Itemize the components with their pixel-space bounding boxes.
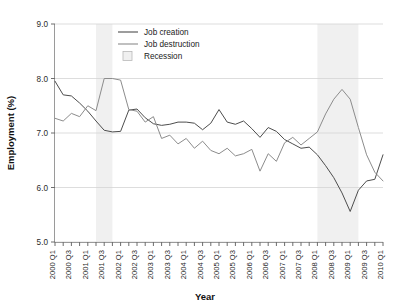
y-tick-label: 7.0 <box>37 129 49 138</box>
x-tick-label: 2009 Q1 <box>343 250 352 279</box>
x-tick-label: 2008 Q3 <box>327 250 336 279</box>
y-tick-label: 9.0 <box>37 20 49 29</box>
x-tick-label: 2002 Q3 <box>130 250 139 279</box>
x-tick-label: 2003 Q3 <box>163 250 172 279</box>
x-tick-label: 2005 Q3 <box>228 250 237 279</box>
x-tick-label: 2001 Q3 <box>97 250 106 279</box>
x-tick-label: 2006 Q3 <box>261 250 270 279</box>
x-tick-label: 2009 Q3 <box>360 250 369 279</box>
x-tick-label: 2005 Q1 <box>212 250 221 279</box>
x-tick-label: 2006 Q1 <box>245 250 254 279</box>
x-tick-label: 2000 Q3 <box>64 250 73 279</box>
legend-label: Job creation <box>144 28 189 37</box>
x-tick-label: 2007 Q1 <box>278 250 287 279</box>
x-tick-label: 2001 Q1 <box>81 250 90 279</box>
x-tick-label: 2004 Q1 <box>179 250 188 279</box>
y-axis-title: Employment (%) <box>5 96 16 170</box>
legend-color-swatch <box>123 52 132 61</box>
y-tick-label: 8.0 <box>37 75 49 84</box>
y-tick-label: 5.0 <box>37 238 49 247</box>
legend-label: Recession <box>144 52 183 61</box>
x-axis-title: Year <box>195 291 215 302</box>
chart-legend: Job creationJob destructionRecession <box>118 28 200 61</box>
employment-line-chart: 5.06.07.08.09.0 2000 Q12000 Q32001 Q1200… <box>0 0 410 308</box>
x-tick-label: 2010 Q1 <box>376 250 385 279</box>
x-tick-label: 2000 Q1 <box>48 250 57 279</box>
x-tick-label: 2004 Q3 <box>196 250 205 279</box>
y-tick-label: 6.0 <box>37 184 49 193</box>
legend-label: Job destruction <box>144 40 200 49</box>
y-axis-ticks: 5.06.07.08.09.0 <box>37 20 55 247</box>
chart-container: 5.06.07.08.09.0 2000 Q12000 Q32001 Q1200… <box>0 0 410 308</box>
x-tick-label: 2003 Q1 <box>146 250 155 279</box>
x-tick-label: 2008 Q1 <box>310 250 319 279</box>
x-tick-label: 2007 Q3 <box>294 250 303 279</box>
x-axis-ticks <box>55 242 383 246</box>
x-tick-label: 2002 Q1 <box>114 250 123 279</box>
x-axis-tick-labels: 2000 Q12000 Q32001 Q12001 Q32002 Q12002 … <box>48 250 385 279</box>
